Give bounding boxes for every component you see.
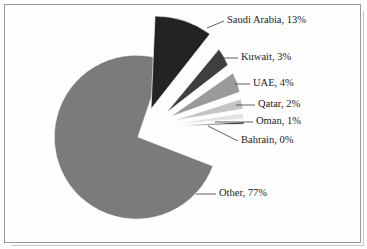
pie-chart: Saudi Arabia, 13% Kuwait, 3% UAE, 4% Qat… <box>0 0 367 249</box>
pie-label-saudi-arabia: Saudi Arabia, 13% <box>227 14 306 25</box>
leader-line-bahrain <box>208 126 238 141</box>
pie-label-bahrain: Bahrain, 0% <box>241 134 294 145</box>
leader-line-saudi-arabia <box>207 21 224 28</box>
pie-label-uae: UAE, 4% <box>253 77 294 88</box>
pie-label-kuwait: Kuwait, 3% <box>241 51 291 62</box>
chart-figure: Saudi Arabia, 13% Kuwait, 3% UAE, 4% Qat… <box>0 0 367 249</box>
pie-label-other: Other, 77% <box>219 187 267 198</box>
pie-slice-other[interactable] <box>54 55 213 219</box>
pie-label-oman: Oman, 1% <box>256 115 301 126</box>
pie-label-qatar: Qatar, 2% <box>258 98 300 109</box>
